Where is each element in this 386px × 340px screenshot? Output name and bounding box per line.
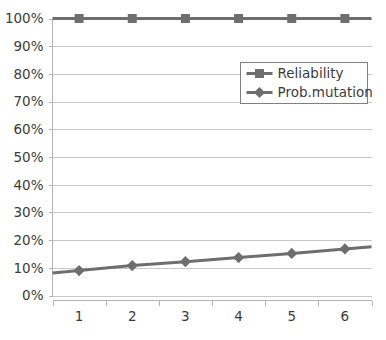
data-point xyxy=(287,14,296,23)
y-axis-labels: 0%10%20%30%40%50%60%70%80%90%100% xyxy=(5,10,44,303)
series-reliability xyxy=(53,14,372,23)
data-point xyxy=(234,14,243,23)
y-axis-label: 30% xyxy=(13,204,43,220)
y-axis-label: 100% xyxy=(5,10,44,26)
x-axis-ticks xyxy=(54,301,373,306)
y-axis-label: 10% xyxy=(13,260,43,276)
y-axis-label: 60% xyxy=(13,121,43,137)
chart-canvas: 0%10%20%30%40%50%60%70%80%90%100%123456R… xyxy=(0,0,386,340)
y-axis-ticks xyxy=(49,20,53,297)
y-axis-label: 80% xyxy=(13,66,43,82)
y-axis-label: 0% xyxy=(22,287,44,303)
gridlines xyxy=(53,20,372,297)
data-point xyxy=(339,243,350,254)
data-point xyxy=(180,256,191,267)
series-line-1 xyxy=(53,247,372,273)
y-axis-label: 40% xyxy=(13,177,43,193)
data-point xyxy=(75,14,84,23)
data-point xyxy=(286,248,297,259)
y-axis-label: 20% xyxy=(13,232,43,248)
data-point xyxy=(73,265,84,276)
x-axis-labels: 123456 xyxy=(75,308,349,324)
x-axis-label: 5 xyxy=(287,308,296,324)
y-axis-label: 90% xyxy=(13,38,43,54)
series-prob-mutation xyxy=(53,243,372,276)
data-point xyxy=(233,252,244,263)
legend: ReliabilityProb.mutation xyxy=(241,63,373,104)
x-axis-label: 4 xyxy=(234,308,243,324)
legend-label: Reliability xyxy=(278,65,344,81)
x-axis-label: 2 xyxy=(128,308,137,324)
x-axis-label: 3 xyxy=(181,308,190,324)
y-axis-label: 70% xyxy=(13,93,43,109)
data-point xyxy=(128,14,137,23)
legend-swatch-marker xyxy=(255,69,264,78)
x-axis-label: 6 xyxy=(341,308,350,324)
data-point xyxy=(340,14,349,23)
line-chart: 0%10%20%30%40%50%60%70%80%90%100%123456R… xyxy=(0,0,386,340)
y-axis-label: 50% xyxy=(13,149,43,165)
data-point xyxy=(127,260,138,271)
legend-label: Prob.mutation xyxy=(278,84,373,100)
data-point xyxy=(181,14,190,23)
x-axis-label: 1 xyxy=(75,308,84,324)
